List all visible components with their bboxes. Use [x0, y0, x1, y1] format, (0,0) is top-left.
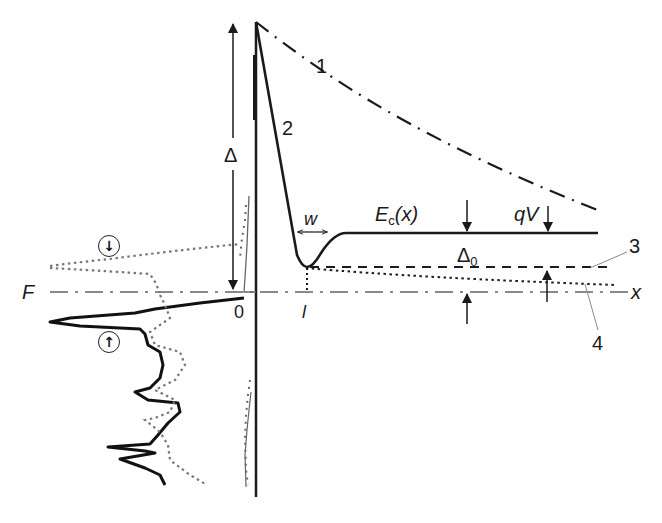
diagram-graphics — [0, 0, 662, 523]
curve-1-label: 1 — [316, 56, 327, 76]
qv-label: qV — [514, 204, 538, 224]
energy-band-diagram: 1 2 Δ w Ec(x) qV Δ0 3 4 F x 0 l ↓ ↑ — [0, 0, 662, 523]
curve-1 — [256, 22, 600, 211]
line-4-label: 4 — [592, 333, 603, 353]
leader-3 — [590, 252, 627, 268]
fermi-label: F — [22, 282, 34, 302]
delta-label: Δ — [224, 145, 237, 165]
ec-label-main: E — [375, 203, 388, 225]
dos-near-axis-upper — [244, 196, 256, 292]
l-label: l — [302, 303, 306, 321]
delta0-main: Δ — [457, 244, 470, 266]
leader-4 — [585, 284, 598, 330]
curve-2-label: 2 — [282, 118, 293, 138]
spin-up-arrow-icon: ↑ — [103, 334, 115, 350]
dos-spin-up — [50, 298, 244, 485]
ec-label-arg: (x) — [395, 203, 418, 225]
x-axis-label: x — [631, 282, 641, 302]
ec-label: Ec(x) — [375, 204, 418, 227]
line-3-label: 3 — [629, 236, 640, 256]
spin-down-marker: ↓ — [98, 235, 120, 257]
curve-2-ec — [256, 22, 598, 267]
dos-near-axis-dots-upper — [240, 205, 246, 258]
spin-down-arrow-icon: ↓ — [103, 238, 115, 254]
w-label: w — [304, 210, 317, 228]
origin-label: 0 — [234, 303, 244, 321]
line-4 — [306, 268, 617, 285]
delta0-sub: 0 — [470, 254, 477, 269]
delta0-label: Δ0 — [457, 245, 478, 268]
spin-up-marker: ↑ — [98, 331, 120, 353]
dos-spin-up-dotted — [145, 295, 207, 485]
dos-spin-down — [50, 244, 240, 293]
